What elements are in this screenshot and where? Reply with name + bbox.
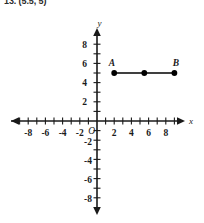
point-b-label: B [172,58,179,68]
y-tick-label: -4 [84,156,92,166]
x-tick-label: -8 [24,128,32,138]
answer-text: 13. (5.5, 5) [4,0,46,6]
y-tick-label: -6 [84,175,92,185]
point-midpoint [141,70,147,76]
origin-label: O [88,126,95,136]
x-tick-label: -6 [41,128,49,138]
y-tick-label: 4 [82,78,87,88]
y-tick-label: -8 [84,194,92,204]
point-b [172,70,178,76]
x-tick-label: 4 [129,128,134,138]
x-axis-label: x [188,116,193,126]
x-tick-label: 6 [146,128,151,138]
x-tick-label: 8 [163,128,168,138]
y-tick-label: 8 [82,40,87,50]
y-tick-label: 2 [82,97,87,107]
point-a-label: A [108,58,115,68]
x-tick-label: -2 [76,128,84,138]
x-tick-label: -4 [59,128,67,138]
y-axis-label: y [97,18,102,28]
coordinate-plane-svg: -8 -6 -4 -2 2 4 6 8 8 6 4 2 -2 -4 -6 -8 … [0,8,204,223]
y-tick-labels: 8 6 4 2 -2 -4 -6 -8 [82,40,92,205]
x-tick-label: 2 [112,128,117,138]
coordinate-plane-figure: -8 -6 -4 -2 2 4 6 8 8 6 4 2 -2 -4 -6 -8 … [0,8,204,223]
y-tick-label: 6 [82,59,87,69]
y-tick-label: -2 [84,137,92,147]
point-a [111,70,117,76]
